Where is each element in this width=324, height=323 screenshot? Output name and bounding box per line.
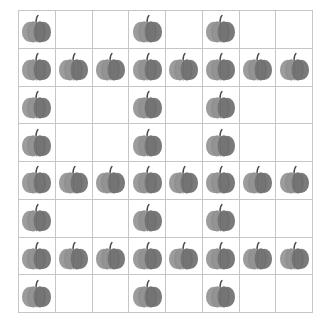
pumpkin-icon xyxy=(132,52,163,82)
pumpkin-icon xyxy=(168,241,199,271)
grid-cell xyxy=(166,275,203,313)
grid-cell xyxy=(129,11,166,49)
grid-cell xyxy=(19,124,56,162)
grid-cell xyxy=(203,87,240,125)
pumpkin-icon xyxy=(21,90,52,120)
pumpkin-icon xyxy=(132,165,163,195)
pumpkin-icon xyxy=(242,241,273,271)
pumpkin-icon xyxy=(205,203,236,233)
pumpkin-icon xyxy=(168,52,199,82)
grid-cell xyxy=(56,124,93,162)
pumpkin-icon xyxy=(58,165,89,195)
grid-cell xyxy=(203,11,240,49)
grid-cell xyxy=(240,238,277,276)
grid-cell xyxy=(166,124,203,162)
pumpkin-icon xyxy=(205,279,236,309)
pumpkin-icon xyxy=(279,241,310,271)
grid-cell xyxy=(276,49,313,87)
grid-cell xyxy=(56,11,93,49)
grid-cell xyxy=(276,87,313,125)
pumpkin-icon xyxy=(95,52,126,82)
grid-cell xyxy=(19,49,56,87)
grid-cell xyxy=(93,275,130,313)
pumpkin-icon xyxy=(95,165,126,195)
grid-cell xyxy=(203,275,240,313)
pumpkin-icon xyxy=(132,241,163,271)
grid-cell xyxy=(19,200,56,238)
pumpkin-icon xyxy=(205,90,236,120)
pumpkin-icon xyxy=(132,90,163,120)
grid-cell xyxy=(276,11,313,49)
pumpkin-icon xyxy=(205,241,236,271)
grid-cell xyxy=(276,238,313,276)
grid-cell xyxy=(93,124,130,162)
pumpkin-icon xyxy=(21,165,52,195)
pumpkin-icon xyxy=(21,279,52,309)
grid-cell xyxy=(56,238,93,276)
pumpkin-icon xyxy=(95,241,126,271)
grid-cell xyxy=(19,275,56,313)
grid-cell xyxy=(93,49,130,87)
grid-cell xyxy=(276,200,313,238)
grid-cell xyxy=(203,162,240,200)
grid-cell xyxy=(19,87,56,125)
grid-cell xyxy=(240,87,277,125)
pumpkin-icon xyxy=(242,165,273,195)
pumpkin-icon xyxy=(21,52,52,82)
grid-cell xyxy=(240,275,277,313)
pumpkin-icon xyxy=(168,165,199,195)
grid-cell xyxy=(19,11,56,49)
grid-cell xyxy=(93,238,130,276)
grid-cell xyxy=(166,200,203,238)
pumpkin-icon xyxy=(21,203,52,233)
pumpkin-icon xyxy=(205,128,236,158)
grid-cell xyxy=(166,49,203,87)
grid-cell xyxy=(56,162,93,200)
grid-cell xyxy=(240,162,277,200)
grid-cell xyxy=(240,200,277,238)
pumpkin-icon xyxy=(132,279,163,309)
grid-cell xyxy=(203,49,240,87)
grid-cell xyxy=(93,87,130,125)
pumpkin-icon xyxy=(21,241,52,271)
grid-cell xyxy=(240,11,277,49)
grid-cell xyxy=(19,238,56,276)
pumpkin-icon xyxy=(132,128,163,158)
pumpkin-grid xyxy=(18,10,313,313)
grid-cell xyxy=(276,124,313,162)
pumpkin-icon xyxy=(205,14,236,44)
grid-cell xyxy=(129,87,166,125)
pumpkin-icon xyxy=(205,165,236,195)
grid-cell xyxy=(240,49,277,87)
grid-cell xyxy=(129,200,166,238)
grid-cell xyxy=(19,162,56,200)
pumpkin-icon xyxy=(132,14,163,44)
grid-cell xyxy=(166,162,203,200)
grid-cell xyxy=(276,275,313,313)
grid-cell xyxy=(93,200,130,238)
pumpkin-icon xyxy=(21,128,52,158)
grid-cell xyxy=(203,124,240,162)
grid-cell xyxy=(56,200,93,238)
grid-cell xyxy=(203,200,240,238)
pumpkin-icon xyxy=(58,52,89,82)
pumpkin-icon xyxy=(205,52,236,82)
grid-cell xyxy=(93,11,130,49)
grid-cell xyxy=(276,162,313,200)
pumpkin-icon xyxy=(132,203,163,233)
grid-cell xyxy=(129,238,166,276)
grid-cell xyxy=(129,162,166,200)
grid-cell xyxy=(129,275,166,313)
grid-cell xyxy=(56,275,93,313)
grid-cell xyxy=(166,87,203,125)
pumpkin-icon xyxy=(279,165,310,195)
pumpkin-icon xyxy=(21,14,52,44)
pumpkin-icon xyxy=(242,52,273,82)
grid-cell xyxy=(203,238,240,276)
grid-cell xyxy=(93,162,130,200)
grid-cell xyxy=(129,124,166,162)
grid-cell xyxy=(240,124,277,162)
grid-cell xyxy=(56,49,93,87)
grid-cell xyxy=(166,11,203,49)
grid-cell xyxy=(56,87,93,125)
